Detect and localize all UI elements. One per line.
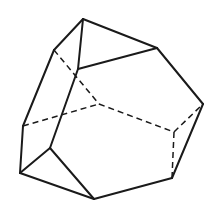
edge-AD — [78, 19, 83, 69]
edge-AC — [54, 19, 83, 50]
edge-LE — [172, 104, 203, 178]
edge-DB — [78, 48, 157, 69]
hidden-edge-CF — [54, 50, 99, 104]
hidden-edge-FG — [99, 104, 174, 132]
edge-JI — [20, 148, 50, 173]
hidden-edges — [23, 50, 203, 178]
polyhedron-diagram — [0, 0, 215, 218]
edge-KL — [94, 178, 172, 199]
edge-CH — [23, 50, 54, 126]
hidden-edge-GL — [172, 132, 174, 178]
hidden-edge-GE — [174, 104, 203, 132]
edge-DI — [50, 69, 78, 148]
edge-BE — [157, 48, 203, 104]
edge-HJ — [20, 126, 23, 173]
edge-AB — [83, 19, 157, 48]
